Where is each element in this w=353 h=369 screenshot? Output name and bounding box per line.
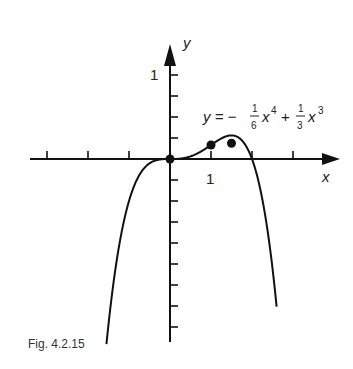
marked-point (227, 139, 236, 148)
y-tick-label-1: 1 (150, 66, 158, 83)
x-axis-arrow-icon (322, 153, 340, 165)
eq-x3: x (307, 108, 316, 125)
eq-exp3: 3 (318, 105, 324, 116)
eq-x4: x (261, 108, 270, 125)
eq-exp4: 4 (271, 105, 277, 116)
y-axis-ticks (170, 75, 178, 327)
marked-point (207, 140, 216, 149)
figure-caption: Fig. 4.2.15 (28, 337, 85, 351)
function-curve (106, 135, 276, 344)
equation-label: y = − 1 6 x 4 + 1 3 x 3 (202, 103, 324, 131)
eq-frac1-num: 1 (252, 103, 258, 114)
eq-frac2-num: 1 (298, 103, 304, 114)
function-plot: y x 1 1 y = − 1 6 x 4 + 1 3 x 3 (0, 0, 353, 369)
x-tick-label-1: 1 (206, 170, 214, 187)
marked-point (166, 155, 175, 164)
eq-frac1-den: 6 (251, 120, 257, 131)
eq-lhs: y = − (202, 108, 237, 125)
x-axis-label: x (321, 168, 330, 185)
y-axis-arrow-icon (164, 44, 176, 66)
eq-frac2-den: 3 (297, 120, 303, 131)
y-axis-label: y (182, 34, 192, 51)
eq-plus: + (281, 108, 290, 125)
